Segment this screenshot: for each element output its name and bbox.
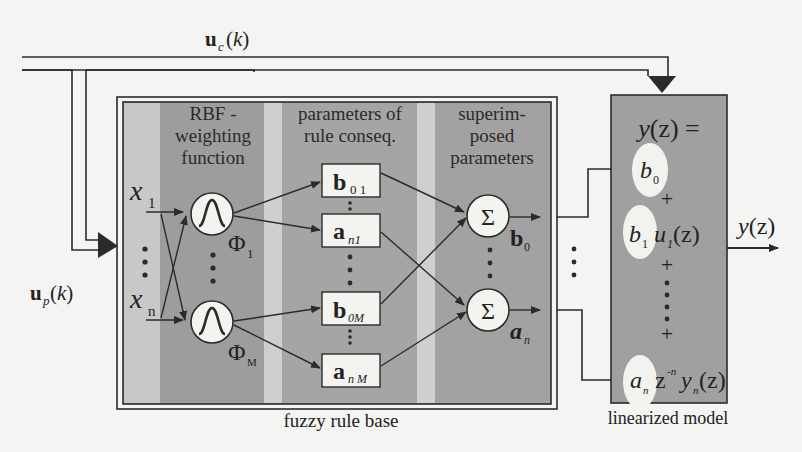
svg-text:posed: posed: [470, 125, 515, 146]
svg-text:-n: -n: [667, 365, 677, 377]
svg-text:Φ: Φ: [228, 230, 246, 256]
uc-feed-lines: [22, 57, 668, 76]
linearized-model-label: linearized model: [608, 408, 728, 428]
svg-text:Σ: Σ: [481, 204, 495, 230]
svg-text:u: u: [30, 281, 42, 305]
svg-text:Σ: Σ: [481, 298, 495, 324]
param-box-an1: a n1: [322, 214, 380, 247]
svg-text:rule conseq.: rule conseq.: [304, 125, 396, 146]
up-arrowhead: [98, 232, 118, 258]
svg-text:b: b: [629, 221, 641, 247]
output-label: y(z): [736, 213, 775, 239]
svg-text:a: a: [333, 358, 345, 384]
svg-text:n1: n1: [348, 232, 361, 247]
svg-text:a: a: [333, 218, 345, 244]
svg-text:y: y: [679, 367, 692, 393]
svg-text:x: x: [129, 175, 143, 206]
svg-text:u: u: [205, 27, 217, 51]
svg-text:b: b: [640, 157, 652, 183]
svg-text:(z): (z): [673, 221, 700, 247]
svg-text:Φ: Φ: [228, 339, 246, 365]
svg-text:weighting: weighting: [175, 125, 251, 146]
svg-text:+: +: [661, 252, 673, 277]
svg-text:(z): (z): [699, 367, 726, 393]
svg-text:+: +: [661, 321, 673, 346]
svg-text:u: u: [654, 221, 666, 247]
svg-text:(k): (k): [50, 281, 73, 305]
svg-text:function: function: [181, 147, 245, 168]
svg-text:c: c: [218, 39, 224, 54]
svg-text:parameters: parameters: [450, 147, 533, 168]
svg-text:n M: n M: [348, 372, 368, 386]
svg-text:superim-: superim-: [458, 103, 526, 124]
uc-arrowhead: [648, 76, 676, 93]
svg-text:+: +: [661, 186, 673, 211]
svg-text:0: 0: [653, 173, 659, 187]
svg-text:1: 1: [148, 195, 156, 211]
param-dots-2: [348, 329, 352, 345]
up-signal-label: u p (k): [30, 281, 73, 308]
svg-text:n: n: [643, 384, 649, 396]
svg-text:n: n: [524, 333, 530, 347]
svg-text:0: 0: [524, 240, 530, 254]
uc-arg: (k): [226, 27, 249, 51]
svg-text:RBF -: RBF -: [190, 103, 237, 124]
svg-text:b: b: [333, 297, 346, 323]
svg-text:0 1: 0 1: [350, 182, 366, 197]
svg-text:p: p: [42, 293, 50, 308]
svg-text:n: n: [148, 303, 156, 319]
equation-head: y(z) =: [635, 114, 700, 143]
param-box-b0M: b 0M: [322, 292, 380, 325]
svg-text:M: M: [247, 356, 257, 368]
up-feed-lines: [22, 70, 100, 250]
svg-text:b: b: [333, 169, 346, 195]
svg-text:b: b: [510, 225, 523, 251]
uc-signal-label: u c (k): [205, 27, 249, 54]
svg-text:a: a: [630, 367, 642, 393]
fuzzy-model-diagram: u c (k) u p (k) RBF - weighting function: [0, 0, 802, 452]
svg-text:0M: 0M: [348, 311, 365, 325]
fuzzy-rule-base-label: fuzzy rule base: [284, 410, 399, 431]
svg-text:1: 1: [642, 237, 648, 251]
svg-text:1: 1: [247, 246, 254, 261]
column-header-parameters: parameters of rule conseq.: [298, 103, 403, 146]
svg-text:z: z: [655, 367, 666, 393]
param-box-b01: b 0 1: [322, 164, 380, 197]
svg-text:a: a: [510, 318, 522, 344]
param-box-anM: a n M: [322, 354, 380, 387]
svg-text:x: x: [129, 283, 143, 314]
svg-text:parameters of: parameters of: [298, 103, 403, 124]
connector-ellipsis-dots: [572, 247, 577, 278]
